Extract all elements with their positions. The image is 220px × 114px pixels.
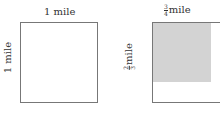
three-quarters-fraction: 34: [164, 4, 168, 17]
left-side-label: 1 mile: [2, 42, 13, 73]
right-side-label: 23mile: [123, 43, 136, 70]
left-top-label: 1 mile: [44, 6, 75, 17]
left-square: [20, 22, 98, 103]
right-top-label: 34mile: [164, 4, 191, 17]
right-square: [152, 22, 220, 103]
right-side-unit: mile: [123, 43, 134, 65]
right-top-unit: mile: [169, 4, 191, 15]
two-thirds-fraction: 23: [123, 66, 136, 70]
